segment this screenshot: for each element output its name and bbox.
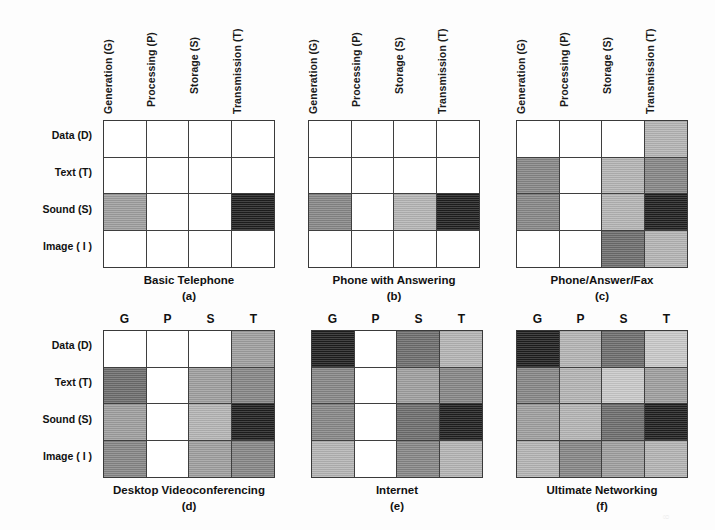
col-header-transmission: Transmission (T) [231, 28, 243, 114]
sublabel-e: (e) [282, 500, 512, 512]
matrix-cell [517, 158, 560, 195]
sublabel-d: (d) [74, 500, 304, 512]
matrix-cell [517, 368, 560, 405]
matrix-cell [602, 441, 645, 478]
sublabel-f: (f) [487, 500, 715, 512]
matrix-cell [440, 404, 483, 441]
matrix-cell [397, 441, 440, 478]
matrix-cell [352, 231, 395, 268]
matrix-cell [517, 194, 560, 231]
row-labels-bottom: Data (D) Text (T) Sound (S) Image ( I ) [0, 330, 98, 478]
matrix-cell [602, 194, 645, 231]
matrix-cell [189, 368, 232, 405]
matrix-cell [440, 441, 483, 478]
matrix-cell [437, 158, 480, 195]
matrix-cell [397, 404, 440, 441]
matrix-cell [397, 331, 440, 368]
col-header-p: P [354, 312, 397, 326]
matrix-cell [517, 331, 560, 368]
matrix-cell [394, 158, 437, 195]
matrix-a [103, 120, 275, 268]
matrix-cell [560, 441, 603, 478]
matrix-cell [147, 331, 190, 368]
caption-d: Desktop Videoconferencing [74, 484, 304, 496]
col-header-generation: Generation (G) [307, 39, 319, 114]
col-header-generation: Generation (G) [102, 39, 114, 114]
matrix-cell [645, 404, 688, 441]
matrix-cell [147, 121, 190, 158]
matrix-cell [437, 121, 480, 158]
matrix-cell [104, 194, 147, 231]
sublabel-c: (c) [487, 290, 715, 302]
matrix-cell [602, 231, 645, 268]
matrix-cell [602, 368, 645, 405]
matrix-cell [355, 404, 398, 441]
col-header-processing: Processing (P) [350, 32, 362, 107]
matrix-cell [147, 194, 190, 231]
column-headers-d: G P S T [103, 312, 275, 328]
col-header-t: T [645, 312, 688, 326]
matrix-cell [645, 368, 688, 405]
matrix-cell [394, 231, 437, 268]
matrix-cell [517, 121, 560, 158]
matrix-cell [437, 194, 480, 231]
caption-b: Phone with Answering [279, 274, 509, 286]
matrix-cell [602, 121, 645, 158]
matrix-cell [232, 158, 275, 195]
col-header-storage: Storage (S) [393, 37, 405, 94]
column-headers-c: Generation (G) Processing (P) Storage (S… [516, 2, 688, 120]
matrix-cell [147, 441, 190, 478]
matrix-f [516, 330, 688, 478]
column-headers-a: Generation (G) Processing (P) Storage (S… [103, 2, 275, 120]
matrix-cell [645, 158, 688, 195]
column-headers-e: G P S T [311, 312, 483, 328]
row-label-data: Data (D) [0, 129, 92, 141]
matrix-cell [352, 194, 395, 231]
caption-c: Phone/Answer/Fax [487, 274, 715, 286]
matrix-cell [560, 231, 603, 268]
matrix-cell [104, 231, 147, 268]
matrix-cell [232, 368, 275, 405]
col-header-p: P [146, 312, 189, 326]
sublabel-a: (a) [74, 290, 304, 302]
matrix-cell [517, 231, 560, 268]
matrix-cell [104, 158, 147, 195]
matrix-cell [232, 441, 275, 478]
col-header-s: S [189, 312, 232, 326]
matrix-cell [560, 404, 603, 441]
matrix-cell [147, 368, 190, 405]
matrix-cell [517, 441, 560, 478]
matrix-cell [352, 158, 395, 195]
matrix-cell [309, 121, 352, 158]
col-header-storage: Storage (S) [601, 37, 613, 94]
row-label-text: Text (T) [0, 376, 92, 388]
caption-f: Ultimate Networking [487, 484, 715, 496]
matrix-cell [232, 121, 275, 158]
row-labels-top: Data (D) Text (T) Sound (S) Image ( I ) [0, 120, 98, 268]
row-label-image: Image ( I ) [0, 450, 92, 462]
matrix-cell [560, 121, 603, 158]
matrix-cell [147, 404, 190, 441]
col-header-processing: Processing (P) [558, 32, 570, 107]
matrix-cell [104, 441, 147, 478]
page-number-artifact: 8 [661, 515, 671, 520]
matrix-cell [645, 194, 688, 231]
matrix-e [311, 330, 483, 478]
matrix-cell [645, 441, 688, 478]
matrix-cell [189, 404, 232, 441]
matrix-cell [517, 404, 560, 441]
col-header-generation: Generation (G) [515, 39, 527, 114]
matrix-cell [147, 231, 190, 268]
matrix-cell [309, 231, 352, 268]
col-header-t: T [440, 312, 483, 326]
matrix-cell [104, 121, 147, 158]
matrix-cell [352, 121, 395, 158]
matrix-cell [602, 331, 645, 368]
matrix-cell [560, 158, 603, 195]
matrix-cell [232, 404, 275, 441]
sublabel-b: (b) [279, 290, 509, 302]
matrix-cell [189, 121, 232, 158]
column-headers-b: Generation (G) Processing (P) Storage (S… [308, 2, 480, 120]
matrix-cell [355, 368, 398, 405]
matrix-cell [560, 331, 603, 368]
